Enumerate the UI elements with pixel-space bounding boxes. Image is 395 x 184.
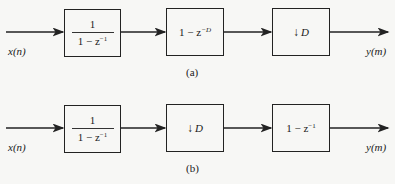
integrator-block-b: 1 1 − z−1 xyxy=(64,105,121,153)
caption-b: (b) xyxy=(186,162,199,174)
transfer-fraction: 1 1 − z−1 xyxy=(72,19,114,47)
input-label-a: x(n) xyxy=(8,45,26,57)
numerator: 1 xyxy=(90,115,96,128)
output-label-b: y(m) xyxy=(366,141,386,153)
comb-block-b: 1 − z−1 xyxy=(272,104,330,152)
numerator: 1 xyxy=(90,19,96,32)
downsampler-block-a: ↓D xyxy=(272,8,330,56)
downsample-expression: ↓D xyxy=(187,121,203,136)
downsample-expression: ↓D xyxy=(293,25,309,40)
comb-expression: 1 − z−1 xyxy=(286,122,316,134)
integrator-block-a: 1 1 − z−1 xyxy=(64,9,121,57)
output-label-a: y(m) xyxy=(366,45,386,57)
transfer-fraction: 1 1 − z−1 xyxy=(72,115,114,143)
denominator: 1 − z−1 xyxy=(78,129,108,143)
caption-a: (a) xyxy=(186,66,198,78)
down-arrow-icon: ↓ xyxy=(293,25,299,39)
down-arrow-icon: ↓ xyxy=(187,121,193,135)
comb-block-a: 1 − z−D xyxy=(166,8,224,56)
denominator: 1 − z−1 xyxy=(78,33,108,47)
downsampler-block-b: ↓D xyxy=(166,104,224,152)
input-label-b: x(n) xyxy=(8,141,26,153)
comb-expression: 1 − z−D xyxy=(179,26,211,38)
